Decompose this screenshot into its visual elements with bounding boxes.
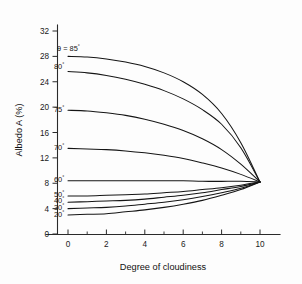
- x-tick-label: 8: [219, 240, 224, 249]
- degree-symbol: °: [62, 174, 64, 180]
- y-tick-label: 28: [40, 52, 50, 61]
- angle-value: 20: [54, 210, 62, 219]
- theta-prefix: θ =: [57, 44, 70, 53]
- x-axis-title: Degree of cloudiness: [120, 262, 207, 272]
- x-axis-ticks: 0246810: [66, 230, 265, 250]
- y-tick-label: 20: [40, 103, 50, 112]
- curve-label-80deg: 80°: [54, 61, 64, 71]
- y-tick-label: 32: [40, 27, 50, 36]
- curve-label-85deg: θ = 85°: [57, 43, 80, 53]
- degree-symbol: °: [62, 209, 64, 215]
- angle-value: 75: [54, 105, 62, 114]
- angle-value: 70: [54, 143, 62, 152]
- angle-value: 85: [70, 44, 78, 53]
- y-tick-label: 0: [44, 230, 49, 239]
- curve-85deg: [68, 56, 260, 182]
- angle-value: 80: [54, 62, 62, 71]
- figure-container: 048121620242832 0246810 θ = 85°80°75°70°…: [0, 0, 302, 284]
- y-tick-label: 4: [44, 205, 49, 214]
- curve-label-70deg: 70°: [54, 142, 64, 152]
- albedo-cloudiness-chart: 048121620242832 0246810 θ = 85°80°75°70°…: [0, 0, 302, 284]
- degree-symbol: °: [78, 43, 80, 49]
- x-tick-label: 2: [104, 240, 109, 249]
- x-tick-label: 4: [143, 240, 148, 249]
- degree-symbol: °: [62, 195, 64, 201]
- curve-50deg: [68, 182, 260, 196]
- curve-label-60deg: 60°: [54, 174, 64, 184]
- curve-label-75deg: 75°: [54, 104, 64, 114]
- curve-group: [68, 56, 260, 215]
- y-tick-label: 16: [40, 129, 50, 138]
- x-tick-label: 6: [181, 240, 186, 249]
- y-tick-label: 12: [40, 154, 50, 163]
- y-tick-label: 8: [44, 179, 49, 188]
- angle-value: 60: [54, 175, 62, 184]
- y-tick-label: 24: [40, 78, 50, 87]
- curve-60deg: [68, 181, 260, 182]
- degree-symbol: °: [62, 202, 64, 208]
- y-axis-title: Albedo A (%): [14, 103, 24, 156]
- degree-symbol: °: [62, 104, 64, 110]
- x-tick-label: 0: [66, 240, 71, 249]
- degree-symbol: °: [62, 142, 64, 148]
- curve-70deg: [68, 148, 260, 182]
- x-tick-label: 10: [255, 240, 265, 249]
- curve-label-20deg: 20°: [54, 209, 64, 219]
- degree-symbol: °: [62, 189, 64, 195]
- degree-symbol: °: [62, 61, 64, 67]
